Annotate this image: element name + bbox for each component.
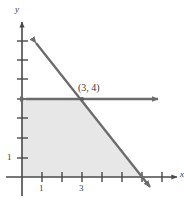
x-tick-label-1: 1 xyxy=(39,184,44,193)
y-tick-label-1: 1 xyxy=(7,153,12,162)
intersection-point xyxy=(80,97,84,101)
x-axis-label: x xyxy=(180,170,184,179)
x-tick-label-3: 3 xyxy=(79,184,84,193)
shaded-region xyxy=(22,99,141,177)
y-axis-label: y xyxy=(15,5,19,14)
intersection-point-label: (3, 4) xyxy=(78,83,100,93)
inequality-graph-figure: y x 1 3 1 (3, 4) xyxy=(0,0,184,200)
graph-canvas xyxy=(0,0,184,200)
